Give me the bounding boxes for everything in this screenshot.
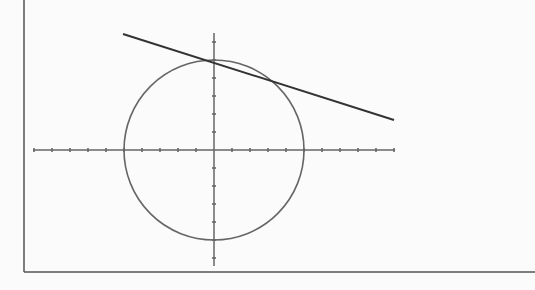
graph-canvas: [0, 0, 535, 290]
circle-tangent-diagram: [0, 0, 535, 290]
frame-border: [24, 0, 535, 272]
tangent-line: [123, 34, 394, 120]
